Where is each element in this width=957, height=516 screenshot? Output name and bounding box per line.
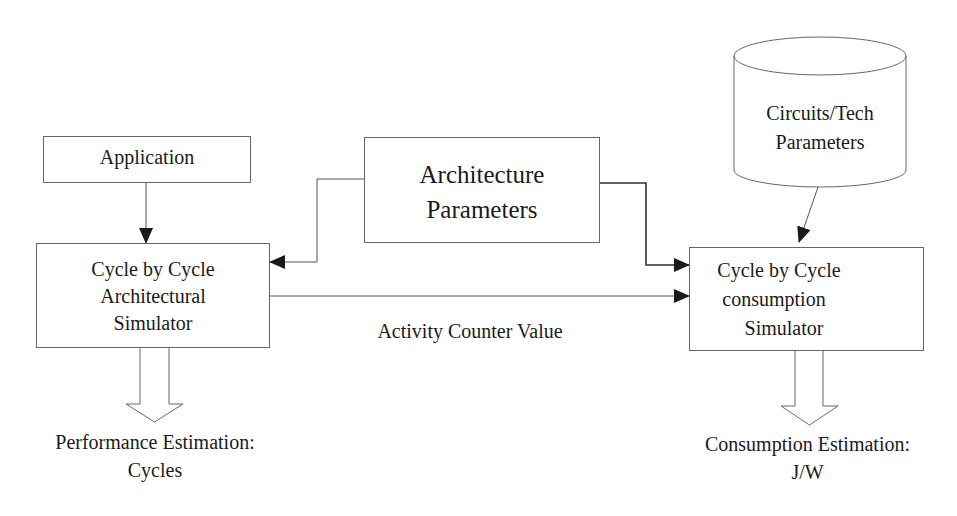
arch-simulator-line3: Simulator xyxy=(36,310,270,337)
consumption-simulator-line3: Simulator xyxy=(689,314,879,343)
performance-output-line2: Cycles xyxy=(30,456,280,484)
arch-params-line2: Parameters xyxy=(364,192,600,227)
arch-simulator-line1: Cycle by Cycle xyxy=(36,256,270,283)
consumption-simulator-line1: Cycle by Cycle xyxy=(679,256,879,285)
arch-params-to-consumption-simulator-arrow xyxy=(600,183,689,265)
activity-counter-text: Activity Counter Value xyxy=(377,320,562,342)
performance-output-arrow xyxy=(126,348,183,422)
application-text: Application xyxy=(100,146,194,168)
arch-simulator-line2: Architectural xyxy=(36,283,270,310)
performance-output-label: Performance Estimation: Cycles xyxy=(30,428,280,484)
consumption-simulator-label: Cycle by Cycle consumption Simulator xyxy=(689,256,879,343)
arch-params-line1: Architecture xyxy=(364,157,600,192)
application-label: Application xyxy=(43,146,251,170)
arch-params-label: Architecture Parameters xyxy=(364,157,600,227)
arch-params-to-arch-simulator-arrow xyxy=(270,179,364,262)
consumption-simulator-line2: consumption xyxy=(669,285,879,314)
performance-output-line1: Performance Estimation: xyxy=(30,428,280,456)
circuits-db-label: Circuits/Tech Parameters xyxy=(734,99,906,157)
consumption-output-arrow xyxy=(781,351,838,425)
consumption-output-label: Consumption Estimation: J/W xyxy=(680,430,935,486)
database-to-consumption-simulator-arrow xyxy=(799,187,818,242)
activity-counter-label: Activity Counter Value xyxy=(345,320,595,344)
consumption-output-line2: J/W xyxy=(680,458,935,486)
circuits-db-line2: Parameters xyxy=(734,128,906,157)
consumption-output-line1: Consumption Estimation: xyxy=(680,430,935,458)
arch-simulator-label: Cycle by Cycle Architectural Simulator xyxy=(36,256,270,337)
circuits-db-line1: Circuits/Tech xyxy=(734,99,906,128)
